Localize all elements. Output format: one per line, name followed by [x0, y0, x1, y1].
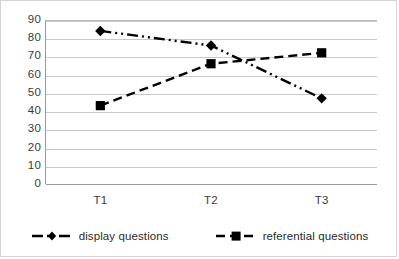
chart-container: 0102030405060708090 T1T2T3 display quest…: [0, 0, 397, 257]
datapoint-referential-questions-T1: [96, 101, 105, 110]
datapoint-referential-questions-T3: [317, 48, 326, 57]
chart-legend: display questionsreferential questions: [1, 223, 398, 249]
y-tick-label-30: 30: [3, 123, 41, 134]
x-tick-label-t1: T1: [93, 194, 107, 206]
diamond-dashdot-key: [31, 230, 73, 242]
y-axis-labels: 0102030405060708090: [1, 1, 41, 201]
y-tick-label-60: 60: [3, 69, 41, 80]
legend-label: display questions: [79, 230, 169, 242]
y-tick-label-70: 70: [3, 50, 41, 61]
x-tick-label-t3: T3: [315, 194, 329, 206]
y-tick-label-40: 40: [3, 105, 41, 116]
y-tick-label-80: 80: [3, 32, 41, 43]
y-tick-label-20: 20: [3, 142, 41, 153]
square-dashed-key: [215, 230, 257, 242]
x-tick-label-t2: T2: [204, 194, 218, 206]
x-axis-labels: T1T2T3: [45, 194, 377, 212]
y-tick-label-50: 50: [3, 87, 41, 98]
datapoint-display-questions-T3: [316, 93, 326, 103]
legend-item-referential-questions: referential questions: [215, 230, 369, 242]
series-layer: [45, 20, 377, 184]
datapoint-display-questions-T1: [95, 26, 105, 36]
gridline-0: [46, 184, 377, 185]
y-tick-label-0: 0: [3, 178, 41, 189]
datapoint-display-questions-T2: [206, 40, 216, 50]
y-tick-label-10: 10: [3, 160, 41, 171]
legend-item-display-questions: display questions: [31, 230, 169, 242]
legend-label: referential questions: [263, 230, 369, 242]
y-tick-label-90: 90: [3, 14, 41, 25]
datapoint-referential-questions-T2: [206, 59, 215, 68]
